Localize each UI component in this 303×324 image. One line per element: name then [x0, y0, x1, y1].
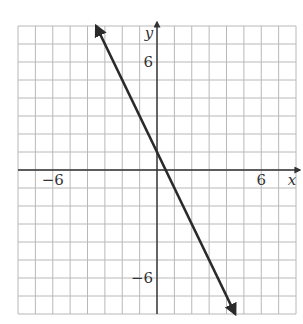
- y-tick-label: −6: [131, 269, 153, 287]
- x-tick-label: −6: [42, 171, 64, 189]
- y-tick-label: 6: [143, 53, 153, 71]
- axis-labels: −666−6xy: [42, 24, 297, 287]
- coordinate-plane: −666−6xy: [0, 0, 303, 324]
- axes: [18, 22, 300, 314]
- x-tick-label: 6: [256, 171, 266, 189]
- x-axis-label: x: [288, 171, 297, 189]
- y-axis-label: y: [144, 24, 154, 42]
